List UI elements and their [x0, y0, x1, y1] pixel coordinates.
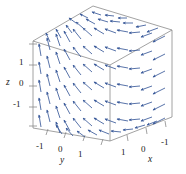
- vector-arrow: [129, 103, 140, 104]
- vector-arrow: [141, 117, 152, 121]
- vector-arrow: [39, 62, 41, 74]
- vector-arrow: [64, 103, 70, 114]
- vector-arrow: [129, 119, 140, 120]
- vector-arrow: [98, 19, 108, 22]
- vector-arrow: [129, 86, 140, 87]
- vector-arrow: [39, 44, 41, 56]
- vector-arrow: [117, 119, 128, 121]
- vector-arrow: [73, 47, 81, 57]
- vector-arrow: [47, 56, 50, 68]
- vector-arrow: [136, 25, 146, 27]
- vector-arrow: [83, 100, 92, 108]
- vector-arrow: [105, 15, 114, 16]
- vector-arrow: [94, 118, 104, 124]
- vector-field-figure: 1 0 -1 z -1 0 1 y 1 0 -1 x: [0, 0, 186, 174]
- vector-arrow: [141, 33, 152, 37]
- vector-arrow: [83, 64, 92, 72]
- vector-arrow: [117, 48, 128, 50]
- vector-arrow: [56, 70, 60, 82]
- vector-arrow: [39, 98, 41, 110]
- vector-arrow: [141, 86, 152, 90]
- vector-arrow: [141, 102, 152, 106]
- vector-arrow: [105, 83, 116, 87]
- plot-canvas: [0, 0, 186, 174]
- vector-arrow: [39, 80, 41, 92]
- box-edge-top-front-right: [110, 30, 172, 65]
- vector-arrow: [111, 131, 121, 132]
- x-tick: [146, 128, 147, 134]
- z-tick-label-0: 0: [19, 79, 24, 88]
- x-tick: [127, 135, 128, 141]
- vector-arrow: [56, 106, 60, 118]
- vector-arrow: [117, 102, 128, 104]
- vector-arrow: [47, 74, 50, 86]
- vector-arrow: [105, 65, 116, 69]
- vector-arrow: [105, 47, 116, 51]
- vector-arrow: [105, 29, 116, 33]
- vector-arrow: [64, 85, 70, 96]
- y-axis-label: y: [60, 156, 64, 166]
- vector-arrow: [73, 65, 81, 75]
- z-tick-label-neg1: -1: [13, 100, 21, 109]
- vector-arrow: [64, 49, 70, 60]
- vector-arrow: [141, 69, 152, 73]
- vector-arrow: [73, 29, 81, 39]
- vector-arrow: [135, 125, 145, 128]
- vector-arrow: [83, 118, 92, 126]
- z-axis-label: z: [6, 78, 10, 88]
- vector-arrow: [153, 118, 165, 124]
- y-tick-label-0: 0: [58, 145, 63, 154]
- vector-arrow: [110, 21, 120, 22]
- vector-arrow: [153, 88, 165, 94]
- vector-arrow: [94, 64, 104, 70]
- vector-arrow: [64, 31, 70, 42]
- vector-arrow: [94, 46, 104, 52]
- vector-arrow: [94, 82, 104, 88]
- vector-arrow: [117, 66, 128, 68]
- vector-arrow: [56, 52, 60, 64]
- z-tick-label-1: 1: [19, 58, 24, 67]
- x-tick: [165, 121, 166, 127]
- vector-arrow: [83, 82, 92, 90]
- vector-arrow: [47, 110, 50, 122]
- box-edge-back-top-left: [33, 6, 93, 41]
- vector-arrow: [141, 51, 152, 55]
- box-edge-top-front-left: [33, 41, 110, 65]
- box-edge-back-top-right: [93, 6, 172, 30]
- vector-arrow: [47, 92, 50, 104]
- y-tick-label-1: 1: [78, 150, 83, 159]
- x-tick-label-neg1: -1: [161, 138, 169, 147]
- vector-arrow: [129, 68, 140, 69]
- vector-arrow: [76, 22, 83, 28]
- vector-arrow: [117, 30, 128, 32]
- vector-arrow: [83, 28, 92, 36]
- vector-arrow: [117, 84, 128, 86]
- vector-field-arrows: [39, 12, 165, 137]
- vector-arrow: [94, 100, 104, 106]
- vector-arrow: [99, 130, 109, 134]
- vector-arrow: [80, 14, 88, 18]
- vector-arrow: [39, 115, 41, 127]
- bounding-box: [33, 6, 172, 141]
- vector-arrow: [73, 118, 81, 128]
- vector-arrow: [88, 130, 97, 135]
- vector-arrow: [64, 67, 70, 78]
- vector-arrow: [47, 38, 50, 50]
- vector-arrow: [123, 129, 133, 130]
- vector-arrow: [129, 32, 140, 33]
- vector-arrow: [105, 101, 116, 105]
- vector-arrow: [73, 101, 81, 111]
- vector-arrow: [105, 119, 116, 123]
- vector-arrow: [73, 83, 81, 93]
- vector-arrow: [153, 104, 165, 110]
- x-axis-label: x: [148, 155, 152, 165]
- vector-arrow: [94, 28, 104, 34]
- vector-arrow: [147, 28, 158, 32]
- vector-arrow: [153, 54, 165, 60]
- vector-arrow: [66, 25, 72, 33]
- vector-arrow: [56, 88, 60, 100]
- x-tick-label-0: 0: [141, 145, 146, 154]
- x-tick-label-1: 1: [121, 148, 126, 157]
- vector-arrow: [83, 46, 92, 54]
- vector-arrow: [153, 71, 165, 77]
